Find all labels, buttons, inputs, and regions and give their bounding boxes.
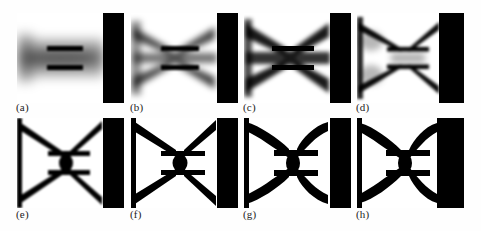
support-wall [439,13,464,103]
panel-label-g: (g) [243,208,256,220]
density-field-d [357,13,464,103]
panel-h [357,118,464,208]
support-wall [330,13,351,103]
density-field-h [357,118,464,208]
support-wall [103,13,124,103]
density-field-f [131,118,238,208]
support-wall [217,13,238,103]
density-field-g [244,118,351,208]
density-field-b [131,13,238,103]
support-wall [217,118,238,208]
panel-label-e: (e) [16,208,29,220]
panel-e [17,118,124,208]
support-wall [103,118,124,208]
panel-label-b: (b) [130,101,143,113]
panel-label-d: (d) [356,101,369,113]
figure-root: (a) [0,0,481,231]
density-field-c [244,13,351,103]
panel-d [357,13,464,103]
panel-b [131,13,238,103]
density-field-a [17,13,124,103]
panel-c [244,13,351,103]
support-wall [330,118,351,208]
panel-f [131,118,238,208]
panel-g [244,118,351,208]
support-wall [437,118,464,208]
diffuse-density-cloud [17,33,105,83]
panel-a [17,13,124,103]
panel-grid: (a) [0,0,481,231]
panel-label-c: (c) [243,101,256,113]
panel-label-f: (f) [130,208,142,220]
panel-label-a: (a) [16,101,29,113]
panel-label-h: (h) [356,208,369,220]
density-field-e [17,118,124,208]
